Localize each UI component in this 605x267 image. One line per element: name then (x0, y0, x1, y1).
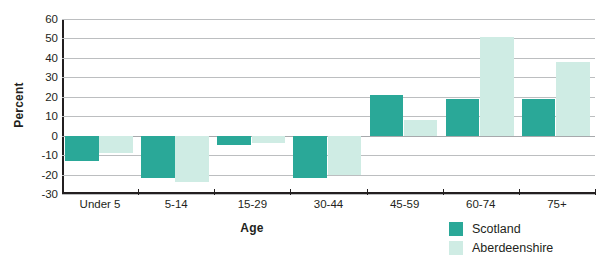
bar-group (443, 19, 519, 194)
y-tick-label: -30 (32, 188, 58, 200)
x-tick-label: 60-74 (466, 198, 495, 210)
x-axis-title: Age (62, 221, 442, 235)
bar (556, 62, 590, 136)
bar-group (519, 19, 595, 194)
bar (99, 136, 133, 154)
y-tick-label: -10 (32, 149, 58, 161)
legend-item-aberdeenshire: Aberdeenshire (449, 238, 553, 257)
bars-layer (62, 19, 595, 194)
bar-group (62, 19, 138, 194)
bar (217, 136, 251, 146)
legend-swatch-scotland (449, 222, 463, 236)
legend-swatch-aberdeenshire (449, 241, 463, 255)
bar-group (138, 19, 214, 194)
bar (522, 99, 556, 136)
bar (404, 120, 438, 136)
bar (480, 37, 514, 136)
legend-label-aberdeenshire: Aberdeenshire (472, 241, 553, 255)
bar (141, 136, 175, 179)
y-tick-label: 20 (32, 91, 58, 103)
x-tick-label: 75+ (547, 198, 567, 210)
bar (65, 136, 99, 161)
y-tick-label: 60 (32, 13, 58, 25)
x-tick-label: 5-14 (165, 198, 188, 210)
bar-group (367, 19, 443, 194)
x-axis-tick-labels: Under 55-1415-2930-4445-5960-7475+ (62, 198, 595, 214)
y-tick-label: -20 (32, 169, 58, 181)
legend: Scotland Aberdeenshire (449, 219, 553, 257)
bar-group (214, 19, 290, 194)
y-tick-label: 40 (32, 52, 58, 64)
y-axis-title: Percent (12, 65, 26, 145)
x-tick-label: Under 5 (80, 198, 121, 210)
bar (175, 136, 209, 183)
y-tick-label: 30 (32, 71, 58, 83)
x-tick-mark (595, 189, 596, 195)
x-tick-label: 15-29 (238, 198, 267, 210)
bar (446, 99, 480, 136)
bar-chart: Percent 6050403020100-10-20-30 Under 55-… (0, 0, 605, 267)
bar-group (290, 19, 366, 194)
y-tick-label: 0 (32, 130, 58, 142)
bar (293, 136, 327, 179)
bar (370, 95, 404, 136)
y-axis-tick-labels: 6050403020100-10-20-30 (28, 19, 58, 194)
legend-label-scotland: Scotland (472, 222, 521, 236)
x-tick-label: 30-44 (314, 198, 343, 210)
legend-item-scotland: Scotland (449, 219, 553, 238)
x-tick-label: 45-59 (390, 198, 419, 210)
bar (252, 136, 286, 144)
y-tick-label: 10 (32, 110, 58, 122)
gridline (62, 194, 595, 195)
plot-area (62, 19, 595, 194)
bar (328, 136, 362, 175)
y-tick-label: 50 (32, 32, 58, 44)
